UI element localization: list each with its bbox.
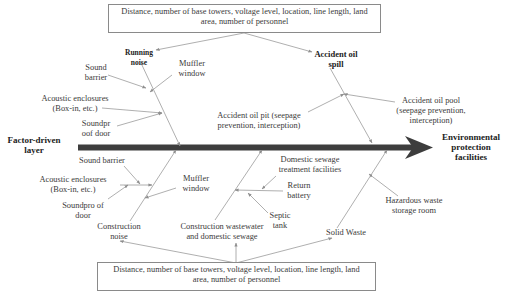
cause-line: Hazardous waste <box>380 196 448 206</box>
cause-line: barrier <box>78 73 114 83</box>
branch-title-construction-wastewater: Construction wastewater and domestic sew… <box>168 222 276 242</box>
bottom-box-line-1: Distance, number of base towers, voltage… <box>98 265 375 275</box>
title-line: Construction wastewater <box>168 222 276 232</box>
branch-title-accident-oil-spill: Accident oil spill <box>307 49 365 69</box>
cause-accident-oil-pit: Accident oil pit (seepage prevention, in… <box>206 111 312 131</box>
cause-line: door <box>58 211 108 221</box>
title-line: Running <box>118 48 160 58</box>
cause-line: treatment facilities <box>268 165 352 175</box>
cause-line: window <box>172 69 212 79</box>
main-spine <box>78 145 414 151</box>
cause-sound-barrier: Sound barrier <box>78 63 114 83</box>
cause-line: interception) <box>388 116 474 126</box>
title-line: noise <box>92 232 146 242</box>
bottom-box-line-2: area, number of personnel <box>98 275 375 285</box>
cause-muffler-window: Muffler window <box>172 59 212 79</box>
branch-title-construction-noise: Construction noise <box>92 222 146 242</box>
cause-line: Accident oil pool <box>388 96 474 106</box>
cause-accident-oil-pool: Accident oil pool (seepage prevention, i… <box>388 96 474 126</box>
cause-line: prevention, interception) <box>206 121 312 131</box>
title-line: Accident oil <box>307 49 365 59</box>
cause-line: Soundpr <box>78 119 114 129</box>
cause-septic-tank: Septic tank <box>266 211 294 231</box>
cause-acoustic-enclosures: Acoustic enclosures (Box-in, etc.) <box>36 94 114 114</box>
cause-soundproof-door: Soundpr oof door <box>78 119 114 139</box>
top-factor-box: Distance, number of base towers, voltage… <box>108 4 381 33</box>
cause-line: Accident oil pit (seepage <box>206 111 312 121</box>
cause-line: Muffler <box>172 59 212 69</box>
cause-line: battery <box>282 191 316 201</box>
title-line: and domestic sewage <box>168 232 276 242</box>
top-box-line-1: Distance, number of base towers, voltage… <box>109 7 380 17</box>
cause-line: Domestic sewage <box>268 155 352 165</box>
title-line: spill <box>307 59 365 69</box>
factor-driven-layer-label: Factor-driven layer <box>3 135 65 155</box>
bottom-factor-box: Distance, number of base towers, voltage… <box>97 262 376 291</box>
cause-line: (Box-in, etc.) <box>34 185 112 195</box>
cause-line: window <box>176 184 216 194</box>
cause-line: tank <box>266 221 294 231</box>
right-label-line-1: Environmental <box>436 132 506 142</box>
branch-title-running-noise: Running noise <box>118 48 160 68</box>
cause-hazardous-waste-storage: Hazardous waste storage room <box>380 196 448 216</box>
right-label-line-2: protection <box>436 142 506 152</box>
cause-line: Muffler <box>176 174 216 184</box>
cause-line: Septic <box>266 211 294 221</box>
branch-title-solid-waste: Solid Waste <box>321 228 371 238</box>
title-line: Construction <box>92 222 146 232</box>
cause-line: oof door <box>78 129 114 139</box>
cause-line: Acoustic enclosures <box>34 175 112 185</box>
right-label-line-3: facilities <box>436 152 506 162</box>
left-label-line-2: layer <box>3 145 65 155</box>
cause-line: storage room <box>380 206 448 216</box>
top-box-line-2: area, number of personnel <box>109 17 380 27</box>
cause-muffler-window-lower: Muffler window <box>176 174 216 194</box>
cause-sound-barrier-lower: Sound barrier <box>74 156 130 166</box>
title-line: noise <box>118 58 160 68</box>
cause-line: Sound barrier <box>74 156 130 166</box>
cause-soundproof-door-lower: Soundpro of door <box>58 201 108 221</box>
cause-line: Sound <box>78 63 114 73</box>
cause-line: Soundpro of <box>58 201 108 211</box>
cause-domestic-sewage-treatment: Domestic sewage treatment facilities <box>268 155 352 175</box>
cause-acoustic-enclosures-lower: Acoustic enclosures (Box-in, etc.) <box>34 175 112 195</box>
cause-line: (Box-in, etc.) <box>36 104 114 114</box>
fishbone-lines <box>0 0 508 299</box>
cause-line: (seepage prevention, <box>388 106 474 116</box>
cause-line: Return <box>282 181 316 191</box>
cause-return-battery: Return battery <box>282 181 316 201</box>
cause-line: Acoustic enclosures <box>36 94 114 104</box>
left-label-line-1: Factor-driven <box>3 135 65 145</box>
title-line: Solid Waste <box>321 228 371 238</box>
environmental-protection-label: Environmental protection facilities <box>436 132 506 162</box>
